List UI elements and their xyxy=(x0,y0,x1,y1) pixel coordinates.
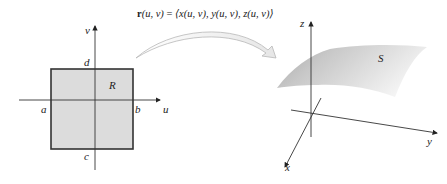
region-r xyxy=(51,69,133,149)
surface-s xyxy=(277,45,427,97)
bound-d-label: d xyxy=(84,57,90,68)
region-r-label: R xyxy=(109,80,116,91)
formula-rhs: ⟨x(u, v), y(u, v), z(u, v)⟩ xyxy=(175,8,274,19)
u-axis-label: u xyxy=(163,104,169,115)
formula-args: (u, v) xyxy=(142,8,164,19)
formula-equals: = xyxy=(164,8,175,19)
bound-c-label: c xyxy=(84,151,89,162)
surface-s-label: S xyxy=(378,53,384,64)
bound-a-label: a xyxy=(41,104,47,115)
space-3d xyxy=(277,22,437,167)
v-axis-label: v xyxy=(85,25,90,36)
x-axis-label: x xyxy=(285,162,290,173)
y-axis-label: y xyxy=(427,136,432,147)
bound-b-label: b xyxy=(135,104,141,115)
z-axis-label: z xyxy=(300,18,304,29)
domain-plane xyxy=(19,26,160,170)
x-axis xyxy=(285,98,321,167)
diagram-canvas xyxy=(0,0,447,184)
parametric-formula: r(u, v) = ⟨x(u, v), y(u, v), z(u, v)⟩ xyxy=(137,9,274,20)
mapping-arrow xyxy=(136,32,276,58)
